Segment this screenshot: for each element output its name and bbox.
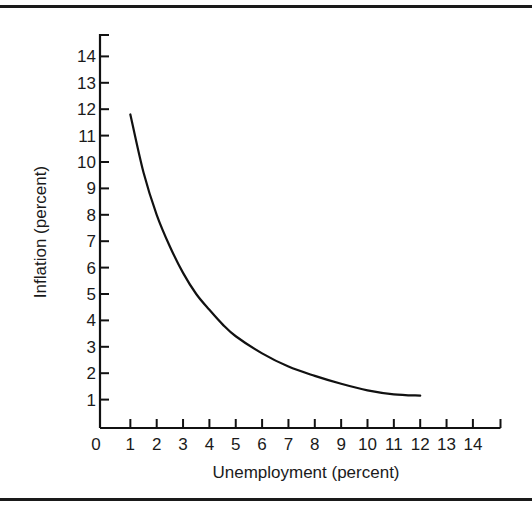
x-tick-label: 5: [231, 435, 240, 454]
x-tick-label: 12: [411, 435, 430, 454]
y-tick-label: 3: [87, 338, 96, 357]
y-tick-label: 4: [87, 311, 96, 330]
y-tick-label: 6: [87, 259, 96, 278]
x-tick-label: 14: [463, 435, 482, 454]
y-tick-label: 7: [87, 232, 96, 251]
x-axis-ticks: 01234567891011121314: [91, 419, 482, 454]
y-tick-label: 13: [77, 74, 96, 93]
x-tick-label: 4: [205, 435, 214, 454]
y-tick-label: 10: [77, 153, 96, 172]
y-tick-label: 1: [87, 391, 96, 410]
y-tick-label: 14: [77, 47, 96, 66]
x-tick-label: 9: [336, 435, 345, 454]
y-tick-label: 8: [87, 206, 96, 225]
inflation-unemployment-curve: [130, 114, 420, 395]
y-tick-label: 2: [87, 364, 96, 383]
x-axis-title: Unemployment (percent): [212, 463, 399, 482]
x-tick-label: 2: [152, 435, 161, 454]
axes: [100, 34, 501, 428]
y-tick-label: 5: [87, 285, 96, 304]
x-tick-label: 8: [310, 435, 319, 454]
x-tick-label: 7: [284, 435, 293, 454]
y-axis-ticks: 1234567891011121314: [77, 47, 109, 409]
x-tick-label: 0: [91, 435, 100, 454]
x-tick-label: 10: [358, 435, 377, 454]
x-tick-label: 1: [126, 435, 135, 454]
y-axis-title: Inflation (percent): [31, 166, 50, 298]
phillips-curve-chart: 1234567891011121314 01234567891011121314…: [0, 0, 532, 519]
y-tick-label: 11: [78, 127, 96, 146]
x-tick-label: 6: [257, 435, 266, 454]
y-tick-label: 12: [77, 100, 96, 119]
x-tick-label: 3: [178, 435, 187, 454]
x-tick-label: 13: [437, 435, 456, 454]
x-tick-label: 11: [385, 435, 403, 454]
y-tick-label: 9: [87, 179, 96, 198]
